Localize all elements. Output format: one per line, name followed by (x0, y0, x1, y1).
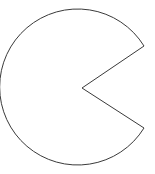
pac-man-sector-svg (0, 0, 155, 174)
pac-man-sector-outline (0, 9, 144, 165)
figure-canvas (0, 0, 155, 174)
